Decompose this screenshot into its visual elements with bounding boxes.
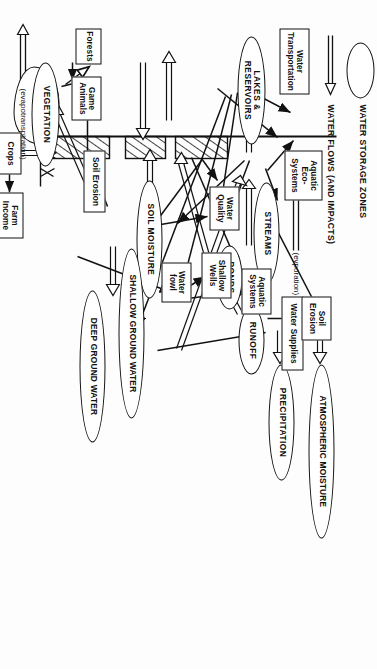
storage-zone-precipitation-label: PRECIPITATION [276, 387, 285, 456]
storage-zone-vegetation-label: VEGETATION [40, 85, 49, 143]
storage-zone-shallow-ground-water[interactable]: SHALLOW GROUND WATER [118, 248, 144, 418]
shallow-wells-label: Shallow Wells [207, 259, 225, 291]
storage-zone-runoff[interactable]: RUNOFF [238, 306, 264, 374]
impact-box-water-quality[interactable]: Water Quality [209, 186, 239, 230]
storage-zone-atmospheric-label: ATMOSPHERIC MOISTURE [316, 395, 325, 507]
annotation-evaporation: (evporation) [289, 252, 303, 342]
legend-storage-zone-icon [346, 42, 374, 98]
water-fowl-label: Water fowl [167, 271, 185, 294]
storage-zone-atmospheric-moisture[interactable]: ATMOSPHERIC MOISTURE [308, 364, 334, 538]
legend-flows-text: WATER FLOWS (AND IMPACTS) [325, 104, 335, 244]
annotation-evapotranspiration-label: (evapotranspiration) [19, 88, 28, 159]
impact-box-soil-erosion-upper[interactable]: Soil Erosion [301, 296, 331, 340]
impact-box-aquatic-eco-systems[interactable]: Aquatic Eco- Systems [284, 150, 322, 200]
impact-box-water-fowl[interactable]: Water fowl [161, 262, 191, 302]
farm-income-label: Farm Income [0, 200, 18, 229]
game-animals-label: Game Animals [77, 82, 95, 115]
aquatic-systems-label: Aquatic Systems [247, 274, 265, 308]
storage-zone-shallow-gw-label: SHALLOW GROUND WATER [126, 274, 135, 392]
water-quality-label: Water Quality [215, 194, 233, 222]
impact-box-water-transportation[interactable]: Water Transportation [279, 28, 309, 94]
diagram-canvas: STREAMS LAKES & RESERVOIRS PONDS RUNOFF … [0, 0, 377, 669]
diagram-page: STREAMS LAKES & RESERVOIRS PONDS RUNOFF … [0, 0, 377, 669]
annotation-evaporation-label: (evporation) [292, 252, 301, 295]
impact-box-forests[interactable]: Forests [75, 28, 101, 64]
legend-storage-text: WATER STORAGE ZONES [357, 104, 367, 218]
impact-box-game-animals[interactable]: Game Animals [71, 76, 101, 120]
storage-zone-vegetation[interactable]: VEGETATION [31, 62, 59, 166]
soil-erosion-lower-label: Soil Erosion [89, 157, 98, 206]
water-transportation-label: Water Transportation [285, 32, 303, 91]
soil-erosion-upper-label: Soil Erosion [307, 302, 325, 333]
legend-water-flows-label: WATER FLOWS (AND IMPACTS) [323, 104, 337, 290]
impact-box-soil-erosion-lower[interactable]: Soil Erosion [83, 150, 105, 212]
aquatic-eco-systems-label: Aquatic Eco- Systems [289, 158, 317, 192]
forests-label: Forests [83, 31, 92, 61]
legend-storage-zones-label: WATER STORAGE ZONES [355, 104, 369, 254]
storage-zone-soil-moisture-label: SOIL MOISTURE [144, 203, 153, 275]
storage-zone-deep-gw-label: DEEP GROUND WATER [87, 317, 96, 415]
storage-zone-lakes-reservoirs[interactable]: LAKES & RESERVOIRS [237, 36, 265, 144]
annotation-evapotranspiration: (evapotranspiration) [16, 88, 30, 208]
storage-zone-runoff-label: RUNOFF [246, 321, 255, 359]
storage-zone-lakes-label: LAKES & RESERVOIRS [242, 60, 260, 119]
storage-zone-streams-label: STREAMS [261, 211, 270, 255]
impact-box-shallow-wells[interactable]: Shallow Wells [201, 252, 231, 298]
storage-zone-precipitation[interactable]: PRECIPITATION [268, 364, 294, 480]
impact-box-aquatic-systems[interactable]: Aquatic Systems [241, 268, 271, 314]
crops-label: Crops [4, 141, 13, 165]
storage-zone-deep-ground-water[interactable]: DEEP GROUND WATER [79, 290, 105, 442]
